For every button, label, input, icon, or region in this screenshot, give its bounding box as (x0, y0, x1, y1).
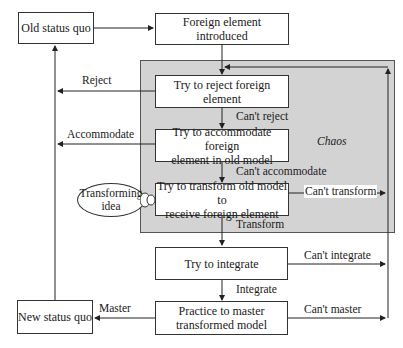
node-try-reject-label: Try to reject foreign element (156, 78, 288, 106)
node-try-transform-line1: Try to transform old model to (156, 179, 288, 207)
edge-label-accommodate: Accommodate (67, 128, 134, 141)
node-try-integrate-label: Try to integrate (184, 257, 258, 271)
node-practice-master-line2: transformed model (176, 318, 267, 332)
edge-label-cant-master: Can't master (304, 303, 361, 316)
edge-label-reject: Reject (82, 74, 111, 87)
edge-label-cant-transform: Can't transform (304, 185, 377, 198)
node-try-accommodate-line1: Try to accommodate foreign (156, 125, 288, 153)
node-try-integrate: Try to integrate (155, 247, 288, 280)
edge-label-transform: Transform (236, 218, 284, 231)
edge-label-cant-integrate: Can't integrate (304, 249, 371, 262)
node-try-transform: Try to transform old model to receive fo… (155, 183, 289, 216)
edge-label-integrate: Integrate (236, 283, 277, 296)
node-new-status-quo: New status quo (17, 300, 93, 334)
node-transforming-idea-line1: Transforming (80, 187, 143, 200)
node-foreign-element: Foreign element introduced (155, 13, 289, 45)
node-practice-master-line1: Practice to master (179, 304, 265, 318)
node-try-accommodate: Try to accommodate foreign element in ol… (155, 129, 289, 162)
node-transforming-idea: Transforming idea (77, 183, 145, 217)
region-label-chaos: Chaos (317, 135, 346, 148)
node-practice-master: Practice to master transformed model (155, 301, 288, 335)
node-new-status-quo-label: New status quo (18, 310, 92, 324)
node-old-status-quo-label: Old status quo (21, 21, 90, 35)
edge-label-cant-reject: Can't reject (236, 110, 288, 123)
connector-lines (0, 0, 403, 348)
node-old-status-quo: Old status quo (18, 12, 94, 44)
node-try-reject: Try to reject foreign element (155, 75, 289, 108)
node-foreign-element-label: Foreign element introduced (156, 15, 288, 43)
thought-bubble-connector (140, 190, 156, 210)
edge-label-cant-accommodate: Can't accommodate (236, 165, 327, 178)
node-transforming-idea-line2: idea (101, 200, 120, 213)
edge-label-master: Master (99, 302, 131, 315)
